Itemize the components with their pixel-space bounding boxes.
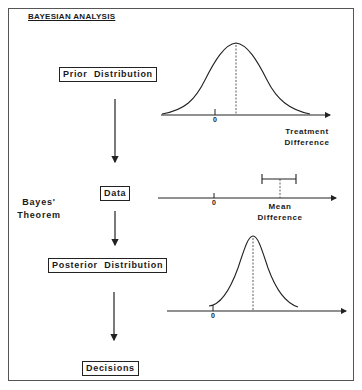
- data-plot: [158, 174, 336, 198]
- data-zero-label: 0: [212, 199, 216, 206]
- posterior-zero-label: 0: [211, 312, 215, 319]
- data-axis-label-line1: Mean: [235, 201, 325, 212]
- diagram-graphics: [0, 0, 362, 390]
- posterior-plot: [167, 236, 346, 311]
- prior-axis-label-line1: Treatment: [262, 126, 352, 137]
- confidence-interval: [262, 174, 296, 198]
- data-axis-label-line2: Difference: [235, 212, 325, 223]
- prior-zero-label: 0: [213, 116, 217, 123]
- data-axis-label: Mean Difference: [235, 201, 325, 223]
- prior-axis-label: Treatment Difference: [262, 126, 352, 148]
- prior-axis-label-line2: Difference: [262, 137, 352, 148]
- prior-plot: [161, 43, 330, 115]
